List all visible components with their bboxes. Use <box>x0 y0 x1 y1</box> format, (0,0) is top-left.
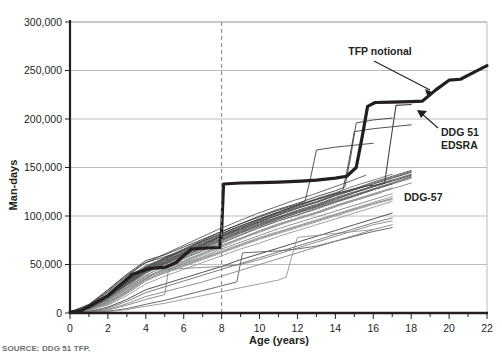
y-tick-label: 0 <box>56 307 62 319</box>
annotation-ddg57-label: DDG-57 <box>404 191 443 203</box>
x-tick-label: 16 <box>367 322 379 334</box>
x-tick-label: 6 <box>181 322 187 334</box>
x-tick-label: 14 <box>330 322 342 334</box>
x-tick-label: 20 <box>443 322 455 334</box>
y-axis-title: Man-days <box>7 160 19 211</box>
x-tick-label: 4 <box>143 322 149 334</box>
x-tick-label: 10 <box>254 322 266 334</box>
y-tick-label: 200,000 <box>24 113 62 125</box>
y-tick-label: 250,000 <box>24 64 62 76</box>
x-tick-label: 0 <box>67 322 73 334</box>
annotation-tfp-notional-label: TFP notional <box>348 45 411 57</box>
annotation-ddg51-edsra-label-line2: EDSRA <box>441 139 478 151</box>
y-tick-label: 50,000 <box>30 258 62 270</box>
x-tick-label: 8 <box>219 322 225 334</box>
y-tick-label: 150,000 <box>24 161 62 173</box>
source-note: SOURCE: DDG 51 TFP. <box>2 344 90 353</box>
annotation-ddg51-edsra-label-line1: DDG 51 <box>441 126 479 138</box>
x-tick-label: 12 <box>292 322 304 334</box>
x-tick-label: 22 <box>481 322 493 334</box>
y-tick-label: 300,000 <box>24 16 62 28</box>
chart-background <box>0 0 502 355</box>
y-tick-label: 100,000 <box>24 210 62 222</box>
man-days-vs-age-chart: 050,000100,000150,000200,000250,000300,0… <box>0 0 502 355</box>
x-tick-label: 18 <box>405 322 417 334</box>
x-axis-title: Age (years) <box>249 334 309 346</box>
x-tick-label: 2 <box>105 322 111 334</box>
